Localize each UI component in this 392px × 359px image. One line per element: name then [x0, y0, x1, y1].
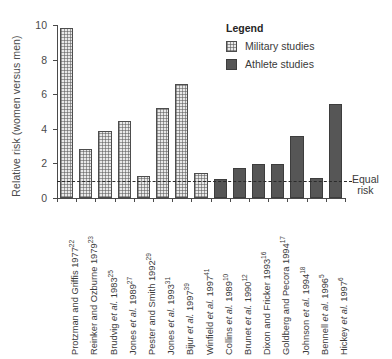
- x-tick: [134, 198, 135, 202]
- x-tick: [57, 198, 58, 202]
- legend-swatch-icon: [226, 59, 237, 70]
- bar: [79, 149, 92, 198]
- x-tick: [287, 198, 288, 202]
- bar: [118, 121, 131, 198]
- bar: [214, 179, 227, 198]
- x-tick: [268, 198, 269, 202]
- x-tick: [345, 198, 346, 202]
- x-axis-label: Pester and Smith 199229: [147, 253, 157, 355]
- x-axis-label: Collins et al. 198910: [224, 274, 234, 355]
- y-tick: [53, 25, 57, 26]
- equal-risk-annotation: Equal risk: [352, 174, 379, 197]
- x-axis-label: Hickey et al. 19976: [339, 277, 349, 355]
- bar: [194, 173, 207, 198]
- y-tick-label: 4: [41, 123, 47, 135]
- x-tick: [172, 198, 173, 202]
- x-tick: [230, 198, 231, 202]
- legend: Legend Military studiesAthlete studies: [226, 22, 376, 76]
- x-axis-label: Bijur et al. 199739: [185, 283, 195, 355]
- bar: [156, 108, 169, 198]
- x-axis-label: Brunet et al. 199012: [243, 274, 253, 355]
- x-axis-label: Jones et al. 199331: [166, 277, 176, 355]
- x-axis-label: Protzman and Griffis 197722: [70, 240, 80, 355]
- x-tick: [76, 198, 77, 202]
- x-axis-label: Goldberg and Pecora 199417: [281, 236, 291, 355]
- y-tick-label: 10: [35, 19, 47, 31]
- x-tick: [326, 198, 327, 202]
- x-tick: [115, 198, 116, 202]
- x-tick: [191, 198, 192, 202]
- x-axis-label: Brudvig et al. 198325: [109, 270, 119, 355]
- bar: [233, 168, 246, 198]
- legend-swatch-icon: [226, 41, 237, 52]
- equal-risk-line-2: risk: [352, 185, 379, 197]
- y-tick-label: 6: [41, 88, 47, 100]
- legend-item-label: Athlete studies: [245, 58, 314, 70]
- y-tick-label: 2: [41, 157, 47, 169]
- y-tick: [53, 129, 57, 130]
- x-axis-label: Winfield et al. 199741: [205, 269, 215, 355]
- legend-item-label: Military studies: [245, 40, 314, 52]
- legend-item: Athlete studies: [226, 58, 376, 70]
- x-axis-label: Bennell et al. 19965: [320, 274, 330, 355]
- equal-risk-line: [57, 181, 352, 182]
- y-tick: [53, 60, 57, 61]
- bar: [60, 28, 73, 198]
- x-axis-label: Johnson et al. 199418: [301, 266, 311, 355]
- x-axis-line: [57, 198, 345, 199]
- y-tick-label: 8: [41, 54, 47, 66]
- x-axis-label: Reinker and Ozburne 197923: [89, 236, 99, 355]
- bar: [329, 104, 342, 198]
- y-axis-line: [57, 25, 58, 198]
- chart-figure: Relative risk (women versus men) 0246810…: [0, 0, 392, 359]
- x-tick: [249, 198, 250, 202]
- x-tick: [211, 198, 212, 202]
- bar: [137, 176, 150, 198]
- x-axis-label: Dixon and Fricker 199316: [262, 252, 272, 355]
- x-axis-label: Jones et al. 198927: [128, 277, 138, 355]
- x-tick: [307, 198, 308, 202]
- bar: [290, 136, 303, 198]
- x-tick: [95, 198, 96, 202]
- legend-title: Legend: [226, 22, 376, 34]
- bar: [98, 131, 111, 198]
- y-tick: [53, 163, 57, 164]
- y-tick-label: 0: [41, 192, 47, 204]
- y-axis-title: Relative risk (women versus men): [10, 16, 22, 216]
- legend-item: Military studies: [226, 40, 376, 52]
- x-tick: [153, 198, 154, 202]
- legend-entries: Military studiesAthlete studies: [226, 40, 376, 70]
- y-tick: [53, 94, 57, 95]
